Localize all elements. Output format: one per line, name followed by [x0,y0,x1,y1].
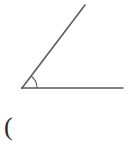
paren-text-label: ( [4,112,22,144]
vertex-point [21,87,23,89]
angle-figure-canvas: ( [0,0,131,145]
